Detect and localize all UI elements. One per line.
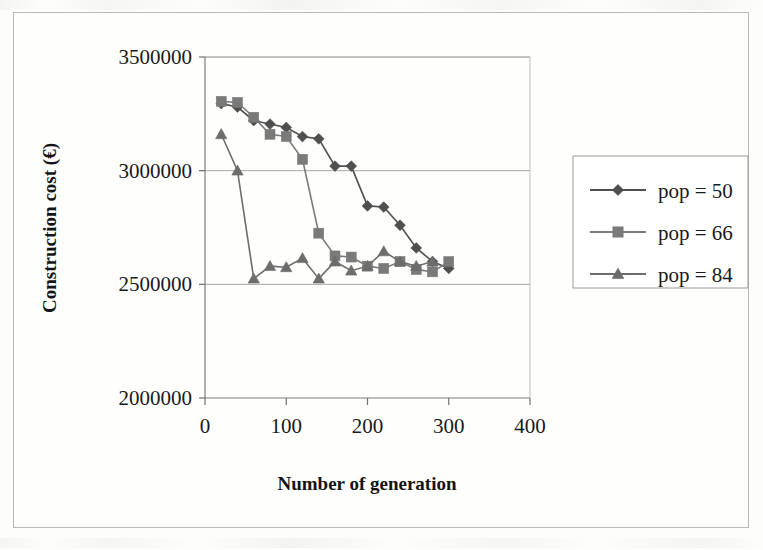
- data-point: [232, 165, 243, 175]
- line-chart: 2000000250000030000003500000 01002003004…: [0, 0, 763, 550]
- data-point: [297, 253, 308, 263]
- plot-frame: [205, 57, 530, 398]
- x-tick-label: 300: [433, 414, 465, 438]
- data-point: [298, 154, 308, 164]
- series-1: [216, 98, 454, 274]
- x-tick-label: 100: [271, 414, 303, 438]
- y-axis-tick-labels: 2000000250000030000003500000: [119, 45, 193, 410]
- gridlines: [205, 57, 530, 284]
- data-series-layer: [216, 96, 455, 283]
- data-point: [248, 273, 259, 283]
- x-axis-ticks: [205, 398, 530, 405]
- legend-label: pop = 84: [658, 263, 733, 287]
- data-point: [314, 228, 324, 238]
- x-axis-tick-labels: 0100200300400: [200, 414, 546, 438]
- data-point: [346, 252, 356, 262]
- data-point: [233, 97, 243, 107]
- y-tick-label: 3500000: [119, 45, 193, 69]
- data-point: [281, 132, 291, 142]
- data-point: [297, 131, 308, 142]
- series-line: [221, 104, 449, 269]
- data-point: [313, 133, 324, 144]
- legend-label: pop = 66: [658, 221, 733, 245]
- chart-page: 2000000250000030000003500000 01002003004…: [0, 0, 763, 550]
- data-point: [281, 122, 292, 133]
- data-point: [330, 161, 341, 172]
- data-point: [428, 267, 438, 277]
- data-point: [362, 201, 373, 212]
- legend-marker-square: [613, 227, 623, 237]
- data-point: [216, 129, 227, 139]
- x-tick-label: 0: [200, 414, 211, 438]
- data-point: [444, 257, 454, 267]
- y-axis-title: Construction cost (€): [39, 143, 61, 313]
- x-axis-title: Number of generation: [277, 473, 457, 494]
- legend-label: pop = 50: [658, 179, 733, 203]
- data-point: [216, 96, 226, 106]
- data-point: [265, 119, 276, 130]
- x-tick-label: 200: [352, 414, 384, 438]
- data-point: [264, 260, 275, 270]
- data-point: [346, 161, 357, 172]
- data-point: [249, 112, 259, 122]
- data-point: [378, 246, 389, 256]
- y-tick-label: 3000000: [119, 159, 193, 183]
- y-axis-ticks: [199, 57, 205, 398]
- data-point: [379, 263, 389, 273]
- legend: pop = 50pop = 66pop = 84: [573, 156, 748, 288]
- y-tick-label: 2000000: [119, 386, 193, 410]
- data-point: [265, 129, 275, 139]
- x-tick-label: 400: [514, 414, 546, 438]
- y-tick-label: 2500000: [119, 272, 193, 296]
